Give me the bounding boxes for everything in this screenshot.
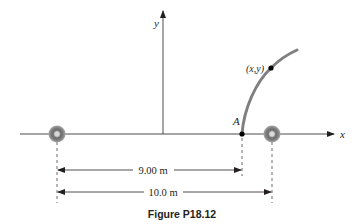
point-a-dot <box>239 131 244 136</box>
diagram-svg: x y A (x,y) <box>0 0 363 224</box>
point-xy-dot <box>268 65 273 70</box>
figure-caption: Figure P18.12 <box>148 208 216 220</box>
right-source-icon <box>264 126 281 143</box>
dimension-9m-label: 9.00 m <box>138 165 167 176</box>
dimension-10m-label: 10.0 m <box>148 187 177 198</box>
x-axis-label: x <box>339 128 345 140</box>
point-xy-label: (x,y) <box>246 63 265 75</box>
y-axis-label: y <box>153 17 159 29</box>
left-source-icon <box>49 126 66 143</box>
point-a-label: A <box>232 115 240 127</box>
figure-canvas: x y A (x,y) <box>0 0 363 224</box>
